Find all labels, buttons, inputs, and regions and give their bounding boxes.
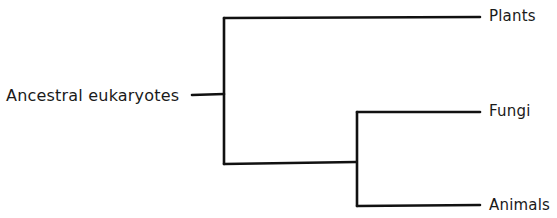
leaf-label-plants: Plants (489, 9, 536, 24)
branch-plants (224, 17, 480, 18)
leaf-label-animals: Animals (489, 198, 550, 213)
branch-inner-node (224, 162, 356, 164)
branch-animals (357, 205, 480, 206)
leaf-label-fungi: Fungi (489, 104, 531, 119)
phylogenetic-tree (0, 0, 557, 218)
root-stem (192, 94, 224, 95)
root-label: Ancestral eukaryotes (6, 88, 179, 104)
